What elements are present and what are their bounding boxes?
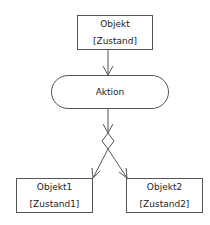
object-name: Objekt (100, 16, 130, 33)
object-node-objekt1[interactable]: Objekt1 [Zustand1] (16, 178, 93, 213)
arrowhead-icon (119, 168, 127, 178)
object-state: [Zustand1] (30, 196, 80, 213)
object-state: [Zustand] (93, 33, 137, 50)
action-label: Aktion (96, 84, 125, 101)
action-node-aktion[interactable]: Aktion (51, 75, 169, 109)
object-state: [Zustand2] (140, 196, 190, 213)
edge-decision-to-objekt2 (108, 149, 127, 178)
object-name: Objekt1 (37, 179, 72, 196)
object-name: Objekt2 (147, 179, 182, 196)
object-node-objekt2[interactable]: Objekt2 [Zustand2] (126, 178, 203, 213)
edge-decision-to-objekt1 (93, 149, 108, 178)
decision-diamond-icon (102, 133, 114, 149)
object-node-objekt[interactable]: Objekt [Zustand] (77, 15, 153, 50)
